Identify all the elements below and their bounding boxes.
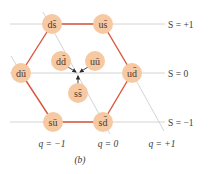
- node-du: dū: [11, 63, 31, 83]
- meson-octet-diagram: ds̄ us̄ dū ud̄ sū sd̄ dd̄ uū ss̄ S = …: [0, 0, 210, 174]
- node-us: us̄: [93, 14, 113, 34]
- label-s-minus-one: S = −1: [168, 118, 194, 128]
- label-q-plus-one: q = +1: [148, 139, 175, 149]
- node-label-sd: sd̄: [99, 116, 108, 127]
- label-s-zero: S = 0: [168, 69, 188, 79]
- label-q-zero: q = 0: [98, 139, 119, 149]
- node-label-ss: ss̄: [74, 88, 82, 99]
- node-label-us: us̄: [99, 19, 108, 30]
- node-label-du: dū: [16, 68, 26, 79]
- node-label-ud: ud̄: [127, 67, 137, 78]
- node-dd: dd̄: [51, 51, 71, 71]
- node-sd: sd̄: [93, 112, 113, 132]
- node-su: sū: [43, 112, 63, 132]
- node-label-uu: uū: [90, 56, 100, 67]
- node-ss: ss̄: [68, 83, 88, 103]
- node-label-dd: dd̄: [56, 55, 66, 66]
- node-ud: ud̄: [122, 63, 142, 83]
- label-q-minus-one: q = −1: [38, 139, 65, 149]
- node-ds: ds̄: [42, 14, 62, 34]
- node-label-ds: ds̄: [48, 19, 57, 30]
- node-label-su: sū: [49, 117, 58, 128]
- figure-caption: (b): [74, 155, 85, 166]
- arrow-uu: [80, 67, 88, 72]
- node-uu: uū: [85, 51, 105, 71]
- label-s-plus-one: S = +1: [168, 20, 194, 30]
